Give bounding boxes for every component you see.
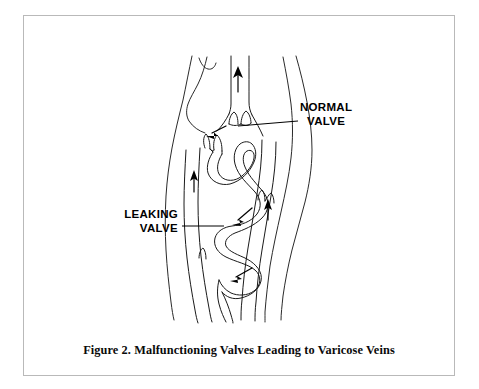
- label-normal-valve-line1: NORMAL: [300, 101, 352, 115]
- deep-vein-center-flare-right: [252, 115, 263, 136]
- normal-valve-cusp-left: [229, 112, 238, 124]
- deep-veins-group: [184, 56, 276, 323]
- label-leaking-valve-line1: LEAKING: [96, 208, 178, 222]
- backflow-arrow-middle: [232, 208, 252, 226]
- backflow-arrow-upper: [206, 126, 226, 139]
- varicose-vein-illustration: [0, 0, 479, 389]
- label-normal-valve: NORMAL VALVE: [300, 101, 352, 128]
- figure-caption: Figure 2. Malfunctioning Valves Leading …: [23, 343, 455, 358]
- label-leaking-valve-line2: VALVE: [96, 222, 178, 236]
- up-arrow-right-vein: [264, 199, 272, 220]
- up-arrow-center-vein: [233, 66, 243, 92]
- deep-vein-center-flare-left: [217, 114, 229, 131]
- up-arrow-left-vein: [190, 170, 198, 192]
- leg-outline-left: [165, 56, 192, 320]
- deep-vein-left-wall-inner: [198, 148, 212, 322]
- varicose-vein: [207, 142, 268, 323]
- normal-valve-cusp-right: [241, 111, 251, 124]
- normal-valve-cusps: [229, 111, 251, 126]
- leg-inner-right-contour: [265, 57, 293, 322]
- deep-vein-center-left-wall: [229, 56, 231, 114]
- varicose-vein-wall-outer: [207, 142, 260, 295]
- label-normal-valve-line2: VALVE: [300, 115, 352, 129]
- deep-vein-center-right-wall: [249, 56, 252, 115]
- backflow-arrow-lower: [230, 268, 252, 283]
- upper-fold-mark: [199, 58, 216, 69]
- deep-vein-right-wall-outer: [255, 142, 276, 321]
- leader-line-normal-valve: [238, 121, 298, 126]
- label-leaking-valve: LEAKING VALVE: [96, 208, 178, 235]
- leg-outline-group: [165, 56, 312, 322]
- leaking-valve-cusp-right: [214, 135, 222, 151]
- leader-lines-group: [182, 121, 298, 226]
- figure-page: NORMAL VALVE LEAKING VALVE Figure 2. Mal…: [0, 0, 479, 389]
- varicose-vein-tail-left: [218, 280, 227, 322]
- normal-valve-floor: [229, 124, 241, 126]
